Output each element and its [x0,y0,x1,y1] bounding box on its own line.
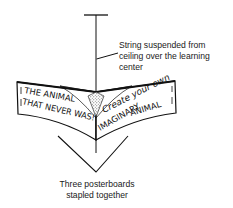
string-leader-line [97,53,119,59]
boards-callout-line-1: Three posterboards [50,179,144,190]
boards-pointer-lines [58,136,128,172]
string-callout-line-1: String suspended from [119,40,210,51]
posterboard-diagram: THE ANIMAL THAT NEVER WAS! Create your o… [0,0,233,208]
boards-callout-label: Three posterboards stapled together [50,179,144,201]
string-callout-line-3: center [119,62,210,73]
boards-callout-line-2: stapled together [50,190,144,201]
string-callout-line-2: ceiling over the learning [119,51,210,62]
string-callout-label: String suspended from ceiling over the l… [119,40,210,73]
